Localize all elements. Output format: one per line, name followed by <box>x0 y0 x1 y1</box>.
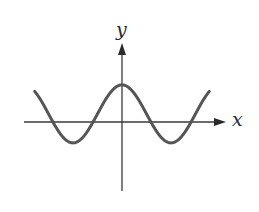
y-axis-label: y <box>116 20 127 39</box>
graph-figure: y x <box>0 0 259 212</box>
x-axis-label: x <box>232 110 243 129</box>
x-axis-arrow-icon <box>214 118 226 126</box>
plot-area <box>0 0 259 212</box>
y-axis-arrow-icon <box>118 43 126 55</box>
y-axis <box>118 43 126 191</box>
